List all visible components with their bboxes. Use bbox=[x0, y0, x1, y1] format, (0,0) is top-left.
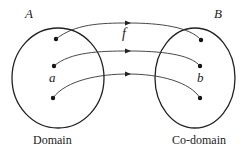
element-a-label: a bbox=[49, 70, 56, 86]
set-a-label: A bbox=[25, 6, 33, 22]
function-label: f bbox=[122, 26, 126, 42]
codomain-set-ellipse bbox=[155, 28, 235, 128]
function-mapping-diagram bbox=[0, 0, 246, 155]
codomain-points bbox=[198, 38, 203, 100]
codomain-caption: Co-domain bbox=[172, 133, 226, 148]
mapping-arrows bbox=[53, 23, 201, 98]
set-b-label: B bbox=[214, 6, 222, 22]
domain-points bbox=[51, 37, 58, 100]
domain-caption: Domain bbox=[33, 133, 72, 148]
element-b-label: b bbox=[197, 70, 204, 86]
